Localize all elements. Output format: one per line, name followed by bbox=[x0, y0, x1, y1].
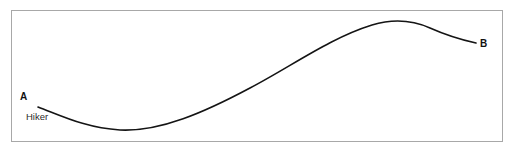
point-a-label: A bbox=[20, 92, 27, 102]
point-b-label: B bbox=[480, 39, 487, 49]
path-svg bbox=[0, 0, 515, 151]
hiker-annotation-label: Hiker bbox=[26, 112, 48, 122]
figure-root: A B Hiker bbox=[0, 0, 515, 151]
hiker-trail-curve bbox=[38, 21, 476, 130]
